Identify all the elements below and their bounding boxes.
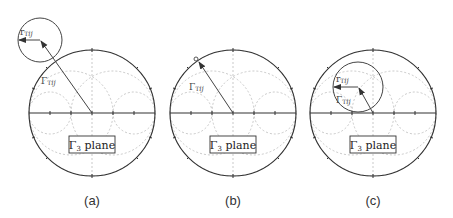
caption-b: (b) xyxy=(225,193,241,208)
vector-label-a: ΓTij xyxy=(41,76,57,87)
panel-b: Γ3 plane ΓTij (b) xyxy=(170,48,296,208)
caption-a: (a) xyxy=(84,193,100,208)
gamma-vector-c xyxy=(359,88,373,113)
diagram-canvas: Γ3 plane rTij ΓTij (a) Γ3 plane ΓTij (b)… xyxy=(0,0,453,218)
plane-label-a: Γ3 plane xyxy=(69,139,115,153)
gamma-vector-b xyxy=(199,62,233,113)
plane-label-b: Γ3 plane xyxy=(210,139,256,153)
vector-label-b: ΓTij xyxy=(189,82,205,93)
panel-a: Γ3 plane rTij ΓTij (a) xyxy=(18,18,155,208)
radius-label-c: rTij xyxy=(336,74,350,85)
caption-c: (c) xyxy=(365,193,380,208)
uncertainty-circle-b xyxy=(194,57,198,61)
gamma-vector-a xyxy=(41,41,92,113)
plane-label-c: Γ3 plane xyxy=(350,139,396,153)
panel-c: Γ3 plane rTij ΓTij (c) xyxy=(310,48,436,208)
radius-label-a: rTij xyxy=(20,27,34,38)
